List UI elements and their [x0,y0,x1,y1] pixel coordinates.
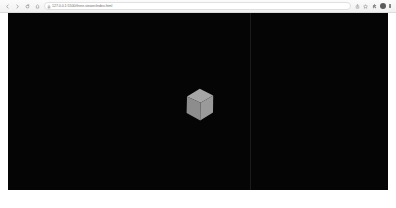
share-icon[interactable] [354,3,360,9]
lock-icon [47,4,51,9]
browser-window: 127.0.0.1:5500/three-viewer/index.html [0,0,396,208]
forward-icon[interactable] [13,2,21,10]
3d-cube[interactable] [185,88,215,122]
navigation-buttons [3,2,41,10]
webgl-canvas[interactable] [8,13,388,190]
viewport-divider [250,13,251,190]
back-icon[interactable] [3,2,11,10]
toolbar-actions [354,3,393,10]
address-bar-url[interactable]: 127.0.0.1:5500/three-viewer/index.html [52,4,348,9]
star-icon[interactable] [363,3,369,9]
cube-geometry [185,88,215,122]
address-bar[interactable]: 127.0.0.1:5500/three-viewer/index.html [44,2,351,10]
reload-icon[interactable] [23,2,31,10]
browser-menu-icon[interactable] [388,3,392,10]
home-icon[interactable] [33,2,41,10]
profile-avatar[interactable] [380,3,386,9]
extensions-icon[interactable] [371,3,377,9]
page-footer [8,190,388,208]
browser-toolbar: 127.0.0.1:5500/three-viewer/index.html [0,0,396,13]
page-viewport [0,13,396,208]
